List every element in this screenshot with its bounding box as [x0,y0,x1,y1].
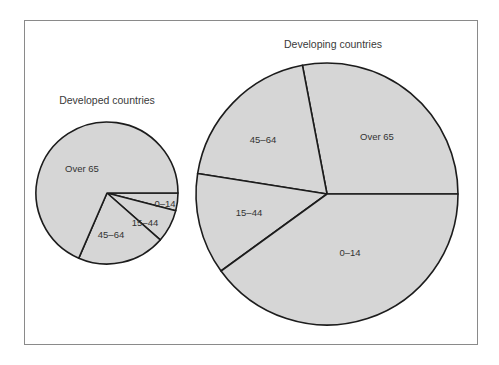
pie-charts: 0–1415–4445–64Over 65 Over 6545–6415–440… [0,0,499,365]
slice-label: 45–64 [250,134,276,145]
slice-label: 0–14 [339,247,360,258]
developing-countries-title: Developing countries [284,38,382,50]
slice-label: 15–44 [236,207,262,218]
slice-label: 0–14 [154,198,175,209]
slice-label: Over 65 [65,163,99,174]
slice-label: 45–64 [98,229,124,240]
slice-label: Over 65 [360,131,394,142]
developed-countries-title: Developed countries [59,94,155,106]
slice-label: 15–44 [132,217,158,228]
developed-countries-pie: 0–1415–4445–64Over 65 [36,122,178,264]
developing-countries-pie: Over 6545–6415–440–14 [196,63,458,325]
pie-slice [302,63,458,194]
